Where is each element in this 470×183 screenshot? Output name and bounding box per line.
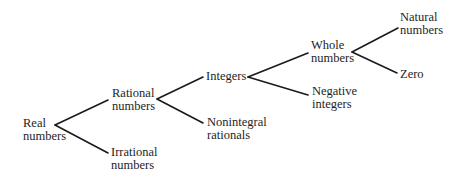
node-real-numbers: Real numbers [23,117,66,142]
node-label-line2: numbers [311,52,354,65]
edge-rational-to-nonintegral [157,99,203,123]
node-rational-numbers: Rational numbers [112,87,155,112]
node-label-line1: Integers [206,70,246,83]
node-zero: Zero [400,68,424,81]
node-label-line2: numbers [23,130,66,143]
node-label-line2: numbers [400,24,443,37]
node-label-line1: Zero [400,68,424,81]
edge-integers-to-negative [248,77,308,95]
node-label-line1: Rational [112,87,155,100]
node-negative-integers: Negative integers [312,85,357,110]
node-label-line2: numbers [112,100,155,113]
node-irrational-numbers: Irrational numbers [111,146,158,171]
node-label-line2: rationals [207,129,267,142]
node-label-line1: Natural [400,11,443,24]
edge-whole-to-natural [352,28,398,52]
node-label-line2: integers [312,98,357,111]
node-label-line1: Whole [311,39,354,52]
edge-integers-to-whole [248,53,308,77]
edge-whole-to-zero [352,52,397,73]
edge-rational-to-integers [157,77,203,99]
node-label-line2: numbers [111,159,158,172]
node-natural-numbers: Natural numbers [400,11,443,36]
node-label-line1: Negative [312,85,357,98]
node-label-line1: Irrational [111,146,158,159]
node-label-line1: Nonintegral [207,116,267,129]
node-whole-numbers: Whole numbers [311,39,354,64]
number-classification-diagram: Real numbers Rational numbers Irrational… [0,0,470,183]
node-label-line1: Real [23,117,66,130]
node-integers: Integers [206,70,246,83]
node-nonintegral-rationals: Nonintegral rationals [207,116,267,141]
